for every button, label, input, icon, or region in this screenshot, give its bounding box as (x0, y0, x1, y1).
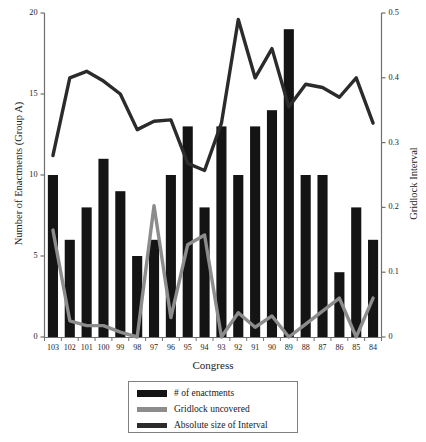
absolute-size-interval-line (53, 19, 373, 170)
bar (351, 207, 361, 337)
plot-area (0, 0, 426, 442)
x-axis-tick-label: 84 (361, 343, 385, 352)
legend-label-enactments: # of enactments (174, 388, 234, 398)
y-axis-right-tick-label: 0.4 (389, 73, 399, 82)
y-axis-right-tick-label: 0.5 (389, 8, 399, 17)
legend-label-gridlock: Gridlock uncovered (174, 404, 250, 414)
legend-item-interval: Absolute size of Interval (137, 418, 268, 432)
y-axis-left-tick-label: 5 (0, 251, 38, 260)
y-axis-right-tick-label: 0.2 (389, 202, 399, 211)
chart-figure: Number of Enactments (Group A) Gridlock … (0, 0, 426, 442)
bar (149, 240, 159, 337)
bar (98, 159, 108, 337)
y-axis-left-tick-label: 20 (0, 8, 38, 17)
bar (368, 240, 378, 337)
y-axis-left-tick-label: 0 (0, 332, 38, 341)
y-axis-left-tick-label: 10 (0, 170, 38, 179)
y-axis-right-tick-label: 0 (389, 332, 393, 341)
bar (200, 207, 210, 337)
legend-swatch-enactments (137, 390, 167, 397)
y-axis-right-title: Gridlock Interval (408, 104, 419, 264)
bar (250, 126, 260, 337)
bar (284, 29, 294, 337)
y-axis-left-tick-label: 15 (0, 89, 38, 98)
bar (82, 207, 92, 337)
bar (267, 110, 277, 337)
x-axis-ticks (45, 337, 382, 341)
legend-swatch-interval (137, 423, 167, 428)
legend-item-enactments: # of enactments (137, 386, 234, 400)
bar (301, 175, 311, 337)
y-axis-right-tick-label: 0.3 (389, 138, 399, 147)
legend-item-gridlock: Gridlock uncovered (137, 402, 250, 416)
legend-label-interval: Absolute size of Interval (174, 420, 268, 430)
y-axis-right-tick-label: 0.1 (389, 267, 399, 276)
chart-legend: # of enactments Gridlock uncovered Absol… (128, 381, 298, 433)
legend-swatch-gridlock (137, 407, 167, 412)
bar (115, 191, 125, 337)
x-axis-title: Congress (0, 359, 426, 371)
